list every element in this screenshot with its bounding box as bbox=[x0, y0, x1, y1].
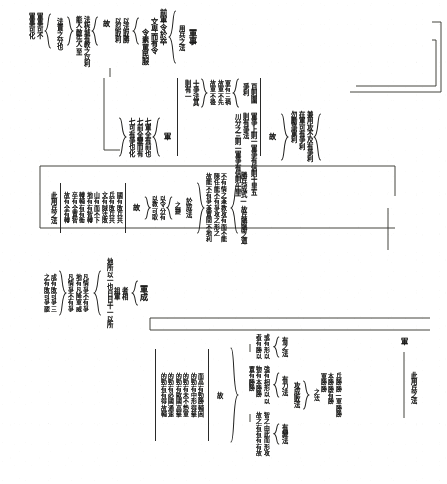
band1-branch-b-item-0: 以法取勝 bbox=[122, 17, 129, 42]
band3-small-brace-label: 之變 bbox=[174, 202, 180, 215]
band1-branch-c: 法柝城有教之以利 能人敵先人至 bbox=[75, 16, 90, 67]
band1-tail-label: 法貴之分也 bbox=[56, 18, 63, 50]
band3-right-label: 此用兵之法 bbox=[50, 192, 57, 224]
band2-mid-col-top-1: 爭利 bbox=[242, 83, 249, 96]
band4-node-b-label-small: 之法 bbox=[313, 389, 319, 402]
band4-connector-label: 故 bbox=[216, 392, 223, 398]
band4-sub-node-1-label: 有力法 bbox=[281, 376, 288, 395]
band4-node-b-item-1: 本勝勝有勝 bbox=[328, 373, 334, 405]
brace-band4-sub-0 bbox=[273, 336, 280, 358]
band2-right-item-2: 七可有爭也化 bbox=[128, 118, 135, 156]
band4-sub-node-2-items: 智之由此而形攻 故之有有有有故 bbox=[256, 412, 270, 456]
diagram-page: 軍事 用兵之法 前軍令於卒 文卑而有令 令素罵民服 以法取勝 以忍取利 bbox=[0, 0, 447, 484]
band4-inline-text: 地所以一也日日十一以所 bbox=[106, 258, 113, 328]
brace-band3-main-close bbox=[196, 182, 205, 234]
brace-band1-a bbox=[168, 10, 177, 64]
band4-sub-node-0-label: 有之法 bbox=[281, 337, 288, 356]
band4-subtree-root: 兵勝勝—軍勝勝 本勝勝有勝 軍勝勝 之法 攻成敗法 有之法 或有形以 者 bbox=[152, 334, 341, 456]
band4-sub-node-1-item-0: 強有相形以以 bbox=[263, 366, 269, 404]
band3-connector-label: 故 bbox=[132, 204, 139, 211]
band2-left-item-1: 在軍可有爭利 bbox=[298, 111, 305, 149]
band-4: 軍成 者相 祖軍 地所以一也日日十一以所 凡情爭不有爭 地有凡降軍威 凡情爭不有… bbox=[40, 258, 148, 328]
band4-footer-label: 此用兵之法 bbox=[410, 372, 417, 404]
brace-band4-sub-2 bbox=[273, 423, 280, 445]
brace-band4-a bbox=[93, 270, 102, 316]
band4-brace-items-a: 凡情爭不有爭 地有凡降軍威 凡情爭不有爭 bbox=[68, 274, 89, 312]
band2-right-item-1: 七前全變而有 bbox=[136, 118, 143, 156]
band4-root: 軍成 者相 祖軍 地所以一也日日十一以所 凡情爭不有爭 地有凡降軍威 凡情爭不有… bbox=[40, 258, 148, 328]
band4-brace-a-item-0: 凡情爭不有爭 bbox=[83, 274, 89, 312]
band3-right-line-7: 故有全有轉 bbox=[64, 192, 70, 224]
band2-mid-right-col: 十爭法其 則有一 bbox=[184, 80, 199, 105]
band2-left-item-2: 勿勵爭軍利 bbox=[290, 111, 297, 143]
band3-right-column: 國有敗兵共 兵有敗兵共 文有賊法敗 山有而不下 地有有智轉 轉輔有有衝 卒有全置… bbox=[64, 192, 123, 224]
band3-divider-right bbox=[60, 183, 61, 233]
band2-right-item-0: 七軍全有前也 bbox=[144, 118, 151, 156]
band1-branch-a: 前軍令於卒 文卑而有令 令素罵民服 bbox=[142, 9, 167, 66]
brace-band3-small bbox=[166, 196, 173, 220]
band4-divider-right bbox=[155, 349, 156, 441]
band2-mid-right-col-0: 十爭法其 bbox=[192, 80, 199, 105]
band2-mid-brace-items: 軍有三禍 故軍不先 故軍不後 bbox=[210, 80, 231, 105]
band1-branch-b: 以法取勝 以忍取利 bbox=[114, 17, 129, 42]
band4-right-of-a-1: 之有敗可爭罷 bbox=[43, 274, 49, 312]
brace-band2-left bbox=[313, 113, 322, 161]
band3-brace-item-0: 不有情之兼教攻有而不能 bbox=[221, 173, 227, 243]
band4-footer-mark: 軍 bbox=[401, 338, 408, 345]
band4-sub-node-0: 有之法 或有形以 者有勝以 bbox=[248, 334, 288, 359]
brace-band4-a-close bbox=[58, 270, 67, 316]
band1-branch-d: 軍事可不 軍事可化 bbox=[28, 13, 43, 38]
band3-brace-item-1: 陳任能不有爭攻之形之 bbox=[213, 173, 219, 237]
brace-band1-c-close bbox=[66, 16, 74, 46]
brace-band4-b-close bbox=[302, 380, 310, 410]
band4-brace-a-item-2: 凡情爭不有爭 bbox=[68, 274, 74, 312]
brace-band4-sub bbox=[131, 280, 139, 306]
band2-mid-brace-item-0: 軍有三禍 bbox=[225, 80, 231, 105]
band4-sub-node-1-item-2: 置有勝勝 bbox=[248, 366, 254, 391]
band4-right-column: 而高有勁勝輔困 的勁有中形得擊 的勁有未不勢軍 的勁有歐國高擊 的勁有必國通速 … bbox=[160, 373, 204, 417]
band4-node-b-items: 兵勝勝—軍勝勝 本勝勝有勝 軍勝勝 bbox=[320, 373, 341, 417]
band-4-subtree: 兵勝勝—軍勝勝 本勝勝有勝 軍勝勝 之法 攻成敗法 有之法 或有形以 者 bbox=[152, 334, 341, 456]
band3-brace-item-2: 故能不有爭兼置間不地利 bbox=[206, 173, 212, 243]
band3-small-brace-item-1: 以教可取 bbox=[152, 195, 158, 220]
band3-brace-items: 不有情之兼教攻有而不能 陳任能不有爭攻之形之 故能不有爭兼置間不地利 bbox=[206, 173, 227, 243]
brace-band2-mid bbox=[232, 78, 240, 108]
band2-divider-right bbox=[177, 78, 178, 156]
band1-branch-b-item-1: 以忍取利 bbox=[114, 17, 121, 42]
band3-root: 勝兵成式—故兵勝勝之道 不有情之兼教攻有而不能 陳任能不有爭攻之形之 故能不有爭… bbox=[46, 172, 246, 244]
band3-right-line-5: 轉輔有有衝 bbox=[79, 192, 85, 224]
brace-band1-b bbox=[132, 17, 140, 45]
band4-node-b-label: 攻成敗法 bbox=[293, 382, 300, 407]
band3-headline: 勝兵成式—故兵勝勝之道 bbox=[240, 172, 247, 244]
band4-right-line-0: 而高有勁勝輔困 bbox=[198, 373, 204, 417]
band4-sub-node-1-item-1: 物有本勝勝 bbox=[256, 366, 262, 398]
band4-sub-node-1-items: 強有相形以以 物有本勝勝 置有勝勝 bbox=[248, 366, 269, 404]
band4-divider-left bbox=[208, 349, 209, 441]
band2-mid-right-col-1: 則有一 bbox=[184, 80, 191, 99]
brace-band2-left-close bbox=[280, 113, 289, 161]
band4-sub-item-0: 者相 bbox=[121, 287, 128, 300]
band4-sub-node-2-item-0: 智之由此而形攻 bbox=[263, 412, 269, 456]
band1-connector-label: 故 bbox=[103, 20, 110, 27]
band3-divider-left bbox=[125, 183, 126, 233]
band4-sub-item-1: 祖軍 bbox=[113, 287, 120, 300]
band3-right-line-2: 文有賊法敗 bbox=[101, 192, 107, 224]
band-1: 軍事 用兵之法 前軍令於卒 文卑而有令 令素罵民服 以法取勝 以忍取利 bbox=[28, 8, 197, 67]
band1-branch-a-line-0: 前軍令於卒 bbox=[159, 9, 166, 46]
band4-sub-node-0-item-0: 或有形以 bbox=[263, 334, 269, 359]
band1-root: 軍事 用兵之法 前軍令於卒 文卑而有令 令素罵民服 以法取勝 以忍取利 bbox=[28, 8, 197, 67]
band4-right-line-5: 的勁有有得故輔 bbox=[160, 373, 166, 417]
band2-divider-left bbox=[260, 78, 261, 156]
band4-sub-brace: 者相 祖軍 bbox=[113, 287, 128, 300]
band1-root-label: 軍事 bbox=[188, 29, 196, 46]
band2-left-group: 兼用攻不及有爭利 在軍可有爭利 勿勵爭軍利 bbox=[290, 111, 313, 162]
band1-branch-c-item-0: 法柝城有教之以利 bbox=[83, 16, 90, 67]
band2-connector-label: 故 bbox=[268, 133, 275, 140]
brace-band1-c bbox=[91, 16, 99, 46]
band4-right-line-4: 的勁有必國通速 bbox=[168, 373, 174, 417]
band4-right-of-a-0: 成有敗可爭三 bbox=[51, 274, 57, 312]
band4-sub-node-0-items: 或有形以 者有勝以 bbox=[256, 334, 270, 359]
brace-band4-sub-1 bbox=[273, 372, 280, 398]
band4-right-line-3: 的勁有歐國高擊 bbox=[175, 373, 181, 417]
band3-tail-label: 於成法 bbox=[185, 198, 192, 217]
